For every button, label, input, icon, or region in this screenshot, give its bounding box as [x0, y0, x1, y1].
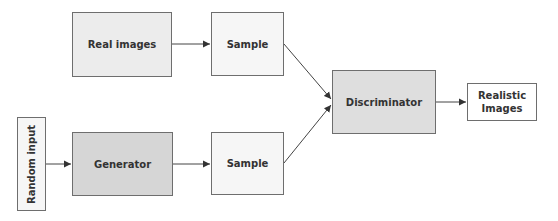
node-random-input: Random input: [17, 117, 46, 211]
arrow-sample-bottom-to-discriminator: [284, 105, 331, 163]
node-label-line2: Images: [482, 102, 523, 115]
node-real-images: Real images: [72, 12, 172, 77]
node-label: Real images: [88, 38, 157, 51]
node-label: Discriminator: [346, 96, 422, 109]
node-label: Generator: [94, 158, 151, 171]
node-label: Sample: [227, 157, 269, 170]
node-sample-bottom: Sample: [211, 132, 284, 195]
node-label: Sample: [227, 38, 269, 51]
node-realistic-images: Realistic Images: [467, 83, 537, 121]
node-discriminator: Discriminator: [332, 70, 436, 134]
node-label-line1: Realistic: [478, 89, 526, 102]
node-sample-top: Sample: [211, 12, 284, 76]
node-label: Random input: [25, 124, 38, 203]
arrow-sample-top-to-discriminator: [284, 44, 331, 99]
node-generator: Generator: [72, 132, 173, 196]
